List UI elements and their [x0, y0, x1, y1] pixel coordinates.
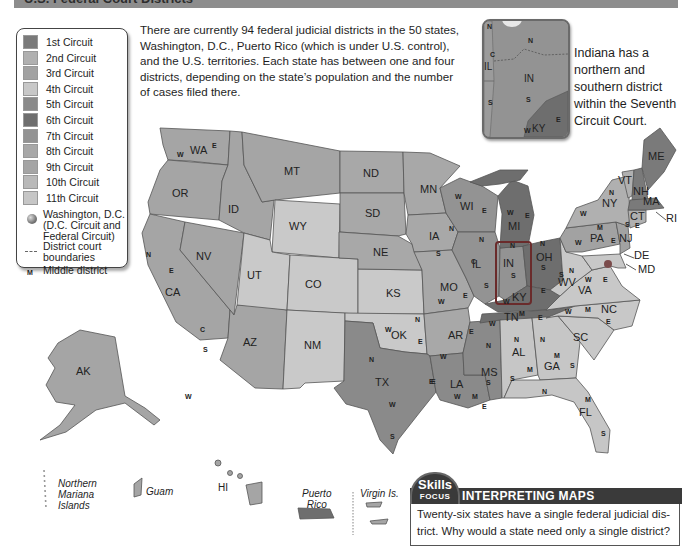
district-label: M: [472, 393, 478, 400]
state-label: OR: [172, 187, 189, 199]
legend-label: 6th Circuit: [46, 114, 93, 126]
hawaii: [246, 482, 262, 505]
district-label: W: [503, 298, 510, 305]
district-label: N: [510, 242, 515, 249]
skills-focus-heading: INTERPRETING MAPS: [462, 489, 594, 503]
district-label: E: [169, 267, 174, 274]
state-label: CT: [630, 210, 645, 222]
state-label: ME: [648, 150, 665, 162]
legend-item-circuit-10: 10th Circuit: [23, 175, 99, 189]
legend-item-circuit-8: 8th Circuit: [23, 144, 93, 158]
state-label: NJ: [619, 232, 632, 244]
district-label: W: [389, 401, 396, 408]
state-co: [287, 255, 358, 314]
district-label: E: [429, 378, 434, 385]
district-label: E: [611, 237, 616, 244]
dc-marker: [604, 260, 612, 268]
district-label: E: [525, 212, 530, 219]
legend-item-circuit-9: 9th Circuit: [23, 160, 93, 174]
district-label: E: [469, 328, 474, 335]
legend-swatch: [23, 66, 38, 80]
legend-middle-district: Middle district: [43, 265, 107, 276]
district-label: S: [390, 433, 395, 440]
district-label: W: [440, 353, 447, 360]
state-label: CA: [165, 286, 180, 298]
district-label: W: [438, 298, 445, 305]
state-label: TX: [375, 376, 389, 388]
state-ak: [40, 330, 160, 440]
district-label: S: [541, 264, 546, 271]
legend-swatch: [23, 191, 38, 205]
legend-swatch: [23, 82, 38, 96]
legend-dc: Washington, D.C. (D.C. Circuit and Feder…: [43, 209, 125, 242]
label-virgin-islands: Virgin Is.: [360, 488, 399, 499]
district-label: W: [177, 151, 184, 158]
district-label: S: [511, 272, 516, 279]
legend-swatch: [23, 35, 38, 49]
district-label: E: [541, 287, 546, 294]
district-label: M: [585, 306, 591, 313]
legend-label: 2nd Circuit: [46, 52, 96, 64]
district-label: S: [510, 375, 515, 382]
intro-paragraph: There are currently 94 federal judicial …: [140, 22, 480, 100]
state-fl: [504, 378, 610, 453]
district-label: S: [484, 282, 489, 289]
state-label: FL: [579, 406, 592, 418]
state-label: MA: [643, 195, 660, 207]
legend-item-circuit-2: 2nd Circuit: [23, 51, 96, 65]
state-label: KS: [386, 287, 401, 299]
state-label: MT: [284, 165, 300, 177]
legend-swatch: [23, 175, 38, 189]
district-label: S: [625, 221, 630, 228]
district-label: W: [489, 320, 496, 327]
state-label: UT: [247, 269, 262, 281]
state-label: GA: [544, 360, 560, 372]
state-label: NC: [601, 303, 617, 315]
state-label: SC: [573, 331, 588, 343]
state-label: TN: [504, 311, 519, 323]
district-label: N: [369, 356, 374, 363]
district-label: E: [482, 207, 487, 214]
state-label: KY: [512, 291, 527, 303]
district-label: W: [565, 308, 572, 315]
district-label: M: [519, 310, 525, 317]
state-label: AZ: [243, 336, 257, 348]
district-label: M: [527, 366, 533, 373]
legend-label: 4th Circuit: [46, 83, 93, 95]
state-label: WA: [190, 144, 207, 156]
district-label: S: [486, 379, 491, 386]
district-label: N: [415, 316, 420, 323]
map-legend: 1st Circuit2nd Circuit3rd Circuit4th Cir…: [16, 28, 128, 268]
district-label: M: [597, 224, 603, 231]
legend-item-circuit-11: 11th Circuit: [23, 191, 98, 205]
district-label: E: [463, 292, 468, 299]
district-label: E: [606, 318, 611, 325]
legend-item-circuit-7: 7th Circuit: [23, 129, 93, 143]
legend-swatch: [23, 160, 38, 174]
legend-label: 11th Circuit: [46, 192, 98, 204]
state-label: VA: [578, 284, 592, 296]
district-label: S: [203, 346, 208, 353]
state-callout-label: DE: [634, 249, 649, 261]
legend-item-circuit-3: 3rd Circuit: [23, 66, 94, 80]
legend-label: 7th Circuit: [46, 130, 93, 142]
state-callout-label: MD: [638, 263, 655, 275]
label-guam: Guam: [146, 486, 173, 497]
state-label: MI: [508, 220, 520, 232]
district-label: N: [540, 336, 545, 343]
state-label: NY: [602, 197, 617, 209]
district-label: N: [609, 189, 614, 196]
district-label: E: [538, 314, 543, 321]
state-label: WY: [289, 220, 307, 232]
state-label: IA: [429, 230, 439, 242]
state-label: NE: [373, 246, 388, 258]
legend-boundaries: District court boundaries: [43, 241, 101, 263]
district-label: S: [570, 362, 575, 369]
boundary-line-icon: [25, 251, 37, 252]
state-label: OK: [391, 329, 407, 341]
legend-item-circuit-6: 6th Circuit: [23, 113, 93, 127]
district-label: M: [554, 352, 560, 359]
legend-item-circuit-1: 1st Circuit: [23, 35, 93, 49]
label-puerto-rico: Puerto Rico: [302, 488, 331, 510]
legend-swatch: [23, 144, 38, 158]
